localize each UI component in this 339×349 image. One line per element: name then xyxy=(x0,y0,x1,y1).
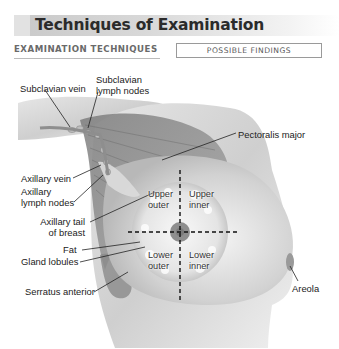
label-subclavian-vein: Subclavian vein xyxy=(20,83,86,94)
label-fat: Fat xyxy=(63,244,77,255)
label-axillary-lymph-nodes-line2: lymph nodes xyxy=(21,197,74,208)
quadrant-upper-inner: Upper inner xyxy=(189,189,214,211)
quadrant-upper-inner-line2: inner xyxy=(189,200,214,211)
areola-profile xyxy=(286,253,294,271)
label-axillary-tail-line2: of breast xyxy=(30,227,85,238)
label-gland-lobules: Gland lobules xyxy=(21,256,78,267)
column-heading-possible-findings: POSSIBLE FINDINGS xyxy=(176,43,322,58)
page-title: Techniques of Examination xyxy=(35,16,264,34)
quadrant-lower-inner: Lower inner xyxy=(189,250,214,272)
quadrant-upper-inner-line1: Upper xyxy=(189,189,214,200)
quadrant-upper-outer: Upper outer xyxy=(148,189,173,211)
label-axillary-tail-line1: Axillary tail xyxy=(30,216,85,227)
label-subclavian-lymph-nodes-line1: Subclavian xyxy=(96,74,142,85)
anatomy-illustration: Subclavian vein Subclavian lymph nodes P… xyxy=(0,60,339,349)
quadrant-lower-outer-line1: Lower xyxy=(148,250,173,261)
quadrant-lower-inner-line2: inner xyxy=(189,261,214,272)
quadrant-upper-outer-line2: outer xyxy=(148,200,173,211)
quadrant-lower-outer: Lower outer xyxy=(148,250,173,272)
quadrant-lower-inner-line1: Lower xyxy=(189,250,214,261)
label-areola: Areola xyxy=(292,283,319,294)
section-header-accent xyxy=(14,15,30,36)
label-subclavian-lymph-nodes-line2: lymph nodes xyxy=(96,85,149,96)
label-serratus-anterior: Serratus anterior xyxy=(25,286,95,297)
label-pectoralis-major: Pectoralis major xyxy=(238,129,305,140)
possible-findings-label: POSSIBLE FINDINGS xyxy=(207,46,291,55)
label-axillary-vein: Axillary vein xyxy=(21,173,71,184)
quadrant-lower-outer-line2: outer xyxy=(148,261,173,272)
column-heading-examination-techniques: EXAMINATION TECHNIQUES xyxy=(14,44,158,54)
column-heading-divider xyxy=(14,58,160,59)
quadrant-upper-outer-line1: Upper xyxy=(148,189,173,200)
label-axillary-lymph-nodes-line1: Axillary xyxy=(21,186,51,197)
